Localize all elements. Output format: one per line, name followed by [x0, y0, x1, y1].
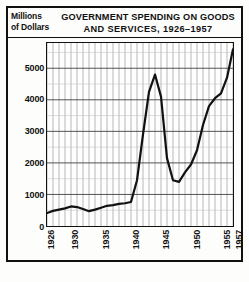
- y-axis: 500040003000200010000: [6, 42, 46, 227]
- y-tick-label: 5000: [25, 63, 44, 73]
- units-line-1: Millions: [11, 11, 59, 22]
- y-tick-label: 3000: [25, 126, 44, 136]
- x-tick-label: 1930: [70, 230, 80, 249]
- gridlines: [47, 43, 233, 226]
- chart-title-line-1: GOVERNMENT SPENDING ON GOODS: [59, 11, 237, 23]
- x-tick-label: 1935: [101, 230, 111, 249]
- x-tick-label: 1945: [161, 230, 171, 249]
- chart-figure: Millions of Dollars GOVERNMENT SPENDING …: [0, 0, 249, 282]
- x-tick-label: 1950: [192, 230, 202, 249]
- y-tick-label: 2000: [25, 158, 44, 168]
- x-tick-label: 1940: [131, 230, 141, 249]
- y-tick-label: 0: [39, 222, 44, 232]
- chart-title-line-2: AND SERVICES, 1926–1957: [59, 23, 237, 35]
- chart-title-block: Millions of Dollars GOVERNMENT SPENDING …: [8, 8, 241, 38]
- units-line-2: of Dollars: [11, 22, 59, 33]
- y-axis-units-label: Millions of Dollars: [8, 8, 59, 32]
- y-tick-label: 4000: [25, 94, 44, 104]
- x-axis: 19261930193519401945195019551957: [46, 229, 234, 261]
- x-tick-label: 1926: [46, 230, 56, 249]
- y-tick-label: 1000: [25, 190, 44, 200]
- plot-area: [46, 42, 234, 227]
- chart-title: GOVERNMENT SPENDING ON GOODS AND SERVICE…: [59, 8, 241, 35]
- x-tick-label: 1957: [234, 230, 244, 249]
- x-tick-label: 1955: [222, 230, 232, 249]
